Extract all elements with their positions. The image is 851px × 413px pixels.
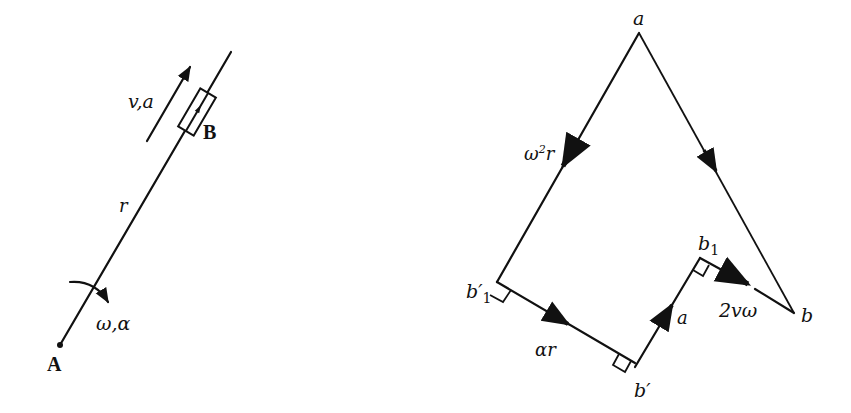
rotation-arrow [70,282,108,302]
label-b1: b1 [698,232,719,258]
label-b-prime: b′ [634,379,651,401]
left-figure: v,a B r ω,α A [47,52,231,375]
label-b: B [203,121,216,143]
label-coriolis: 2vω [718,299,757,321]
label-centripetal: ω2r [524,143,556,164]
label-relative-a: a [677,307,688,328]
vector-total [639,33,794,313]
pivot-point-a [57,342,63,348]
label-b1-prime: b′1 [466,280,491,306]
label-alpha-r: αr [535,339,557,360]
label-a-point: A [47,353,62,375]
label-v-a: v,a [128,90,154,112]
label-pole-a: a [633,7,644,29]
kinematics-diagram: v,a B r ω,α A a ω2r b′1 αr b′ a [0,0,851,413]
label-r: r [119,195,129,216]
right-angle-b1-prime [490,290,511,302]
right-angle-b-prime [613,354,631,372]
label-point-b: b [801,304,813,326]
label-omega-alpha: ω,α [96,312,131,334]
right-figure: a ω2r b′1 αr b′ a b1 2vω b [466,7,813,401]
